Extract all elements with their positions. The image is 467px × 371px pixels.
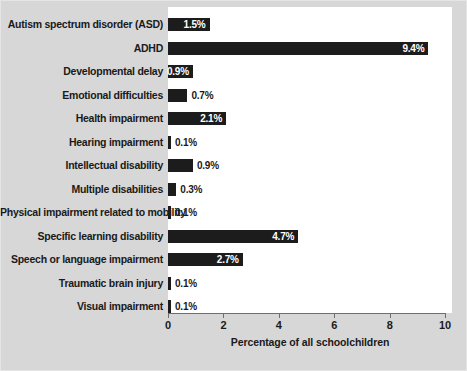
bar-row: Health impairment2.1% (0, 112, 467, 125)
bar-row: Physical impairment related to mobility0… (0, 206, 467, 219)
x-axis-tick-mark (445, 313, 446, 318)
bar (168, 42, 428, 55)
bar-value-label: 2.7% (217, 253, 239, 266)
bar-value-label: 0.7% (191, 89, 213, 102)
bar-row: Visual impairment0.1% (0, 300, 467, 313)
bar-value-label: 0.3% (180, 183, 202, 196)
bar-value-label: 9.4% (402, 42, 424, 55)
bar-row: Hearing impairment0.1% (0, 136, 467, 149)
bar-row: Intellectual disability0.9% (0, 159, 467, 172)
category-label: Specific learning disability (0, 229, 163, 243)
x-axis-tick-label: 0 (153, 319, 183, 331)
x-axis-tick-label: 4 (264, 319, 294, 331)
x-axis-title: Percentage of all schoolchildren (168, 336, 452, 348)
x-axis-tick-label: 2 (208, 319, 238, 331)
category-label: Emotional difficulties (0, 88, 163, 102)
bar-value-label: 0.1% (175, 206, 197, 219)
bar-value-label: 1.5% (184, 18, 206, 31)
bar-row: Multiple disabilities0.3% (0, 183, 467, 196)
bar-row: Developmental delay0.9% (0, 65, 467, 78)
bar-value-label: 0.1% (175, 136, 197, 149)
bar-value-label: 0.1% (175, 277, 197, 290)
category-label: Intellectual disability (0, 158, 163, 172)
x-axis-tick-label: 6 (319, 319, 349, 331)
bar (168, 206, 171, 219)
bar-value-label: 0.9% (167, 65, 189, 78)
bar-row: Autism spectrum disorder (ASD)1.5% (0, 18, 467, 31)
bar-row: Emotional difficulties0.7% (0, 89, 467, 102)
category-label: Multiple disabilities (0, 182, 163, 196)
x-axis-tick-mark (279, 313, 280, 318)
bar (168, 277, 171, 290)
bar (168, 136, 171, 149)
x-axis-tick-label: 10 (430, 319, 460, 331)
category-label: Visual impairment (0, 299, 163, 313)
bar-row: Speech or language impairment2.7% (0, 253, 467, 266)
category-label: Physical impairment related to mobility (0, 205, 163, 219)
x-axis-line (168, 313, 445, 314)
x-axis-tick-mark (390, 313, 391, 318)
category-label: ADHD (0, 41, 163, 55)
bar-value-label: 2.1% (200, 112, 222, 125)
bar-row: Traumatic brain injury0.1% (0, 277, 467, 290)
x-axis-tick-mark (334, 313, 335, 318)
bar-value-label: 0.9% (197, 159, 219, 172)
x-axis-tick-label: 8 (375, 319, 405, 331)
bar (168, 159, 193, 172)
bar-row: ADHD9.4% (0, 42, 467, 55)
category-label: Developmental delay (0, 64, 163, 78)
category-label: Health impairment (0, 111, 163, 125)
x-axis-tick-mark (223, 313, 224, 318)
bar-value-label: 4.7% (272, 230, 294, 243)
bar (168, 300, 171, 313)
category-label: Autism spectrum disorder (ASD) (0, 17, 163, 31)
category-label: Hearing impairment (0, 135, 163, 149)
category-label: Speech or language impairment (0, 252, 163, 266)
x-axis-tick-mark (168, 313, 169, 318)
bar-value-label: 0.1% (175, 300, 197, 313)
bar (168, 183, 176, 196)
category-label: Traumatic brain injury (0, 276, 163, 290)
bar-row: Specific learning disability4.7% (0, 230, 467, 243)
bar (168, 89, 187, 102)
bar-chart-figure: Autism spectrum disorder (ASD)1.5%ADHD9.… (0, 0, 467, 371)
